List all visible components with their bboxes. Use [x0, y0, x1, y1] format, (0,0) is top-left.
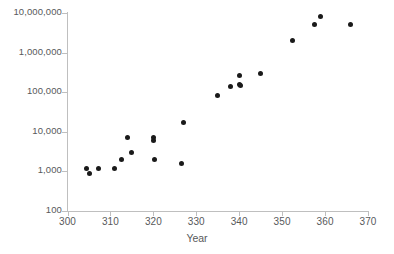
- data-point: [96, 166, 101, 171]
- data-point: [215, 93, 220, 98]
- y-tick-label: 10,000: [32, 125, 62, 136]
- data-point: [152, 157, 157, 162]
- data-point: [179, 161, 184, 166]
- y-tick-label: 1,000: [38, 164, 62, 175]
- x-tick-label: 350: [262, 216, 302, 227]
- data-point: [237, 73, 242, 78]
- x-tick-label: 330: [176, 216, 216, 227]
- y-tick: [62, 53, 67, 54]
- x-tick-label: 340: [219, 216, 259, 227]
- x-tick-label: 360: [305, 216, 345, 227]
- data-point: [318, 14, 323, 19]
- x-tick-label: 300: [48, 216, 88, 227]
- scatter-chart: 1001,00010,000100,0001,000,00010,000,000…: [0, 0, 394, 254]
- data-point: [112, 166, 117, 171]
- data-point: [87, 171, 92, 176]
- data-point: [151, 138, 156, 143]
- y-tick: [62, 13, 67, 14]
- data-point: [348, 22, 353, 27]
- data-point: [290, 38, 295, 43]
- data-point: [258, 71, 263, 76]
- y-tick-label: 1,000,000: [19, 46, 62, 57]
- y-axis-line: [67, 12, 68, 212]
- y-tick: [62, 211, 67, 212]
- x-axis-title: Year: [0, 232, 394, 244]
- y-tick-label: 100,000: [27, 85, 62, 96]
- data-point: [228, 84, 233, 89]
- y-tick: [62, 132, 67, 133]
- data-point: [312, 22, 317, 27]
- data-point: [181, 120, 186, 125]
- y-tick-label: 100: [46, 204, 62, 215]
- data-point: [125, 135, 130, 140]
- y-tick-label: 10,000,000: [13, 6, 62, 17]
- data-point: [119, 157, 124, 162]
- x-tick-label: 370: [348, 216, 388, 227]
- data-point: [129, 150, 134, 155]
- x-tick-label: 320: [133, 216, 173, 227]
- y-tick: [62, 171, 67, 172]
- data-point: [238, 83, 243, 88]
- data-point: [84, 166, 89, 171]
- x-axis-line: [67, 211, 368, 212]
- x-tick-label: 310: [90, 216, 130, 227]
- y-tick: [62, 92, 67, 93]
